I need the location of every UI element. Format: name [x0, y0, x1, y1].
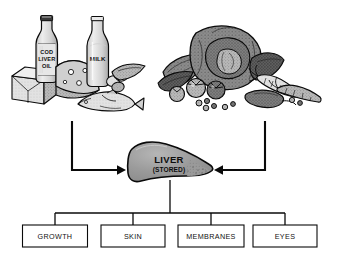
cod-liver-oil-label-line2: LIVER — [38, 56, 55, 62]
vegetables-illustration — [158, 26, 321, 111]
function-box-eyes[interactable]: EYES — [253, 225, 317, 247]
function-box-eyes-label: EYES — [275, 232, 296, 241]
diagram-canvas: COD LIVER OIL MILK — [0, 0, 337, 267]
milk-bottle-icon: MILK — [87, 17, 109, 87]
liver-label: LIVER — [154, 154, 183, 165]
connector-liver-to-functions — [55, 180, 285, 225]
animal-foods-illustration: COD LIVER OIL MILK — [12, 16, 145, 112]
liver-shape: LIVER (STORED) — [128, 142, 213, 182]
fish-fillet-icon — [112, 64, 145, 80]
function-box-growth-label: GROWTH — [38, 232, 73, 241]
arrow-animal-foods-to-liver — [72, 121, 126, 175]
arrow-vegetables-to-liver — [214, 121, 265, 175]
function-box-skin-label: SKIN — [124, 232, 142, 241]
function-box-membranes[interactable]: MEMBRANES — [178, 225, 244, 247]
cod-liver-oil-label-line1: COD — [40, 49, 53, 55]
liver-sublabel: (STORED) — [153, 166, 186, 174]
cod-liver-oil-bottle-icon: COD LIVER OIL — [36, 16, 58, 83]
cod-liver-oil-label-line3: OIL — [42, 63, 52, 69]
function-box-membranes-label: MEMBRANES — [186, 232, 235, 241]
diagram-root: COD LIVER OIL MILK — [0, 0, 337, 267]
function-box-skin[interactable]: SKIN — [101, 225, 165, 247]
function-box-growth[interactable]: GROWTH — [23, 225, 88, 247]
